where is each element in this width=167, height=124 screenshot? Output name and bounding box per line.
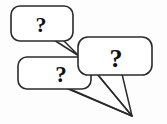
illustration-canvas: ? ? ? [0, 0, 167, 124]
bubble-right-question-mark: ? [110, 44, 123, 73]
bubble-top-left-tail [54, 40, 79, 56]
bubble-top-left-question-mark: ? [36, 12, 47, 37]
speech-bubbles-illustration: ? ? ? [0, 0, 167, 124]
bubble-top-left: ? [11, 6, 79, 56]
bubble-bottom-left-question-mark: ? [55, 62, 67, 87]
